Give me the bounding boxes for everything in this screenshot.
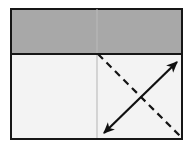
diagram-root: [0, 0, 192, 151]
diagram-canvas: [0, 0, 192, 151]
